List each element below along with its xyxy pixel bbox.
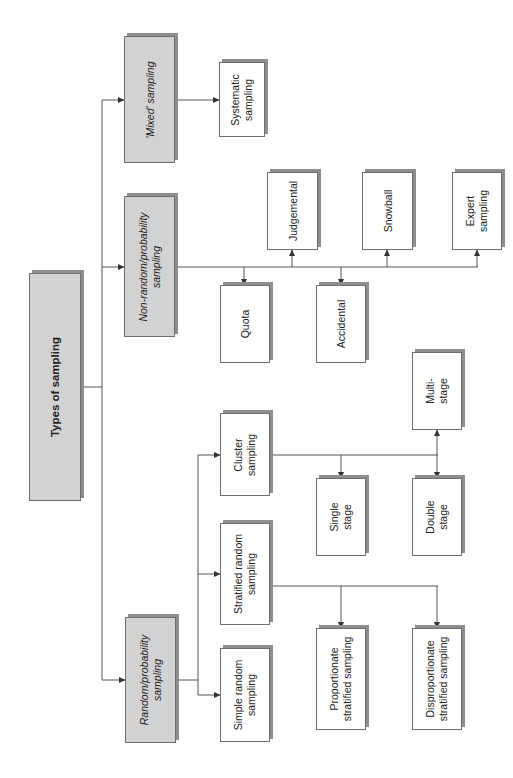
node-label: Cluster sampling [232, 433, 258, 475]
node-label: Non-random/probability sampling [137, 212, 163, 321]
node-label: 'Mixed' sampling [143, 61, 156, 138]
node-proportionate-stratified-sampling: Proportionate stratified sampling [316, 628, 366, 730]
node-simple-random-sampling: Simple random sampling [220, 648, 270, 742]
node-multi-stage: Multi- stage [412, 352, 462, 430]
node-random-sampling: Random/probability sampling [125, 617, 176, 743]
node-label: Systematic sampling [229, 74, 255, 125]
node-accidental: Accidental [316, 285, 366, 363]
node-snowball: Snowball [362, 172, 413, 250]
node-label: Disproportionate stratified sampling [424, 637, 450, 722]
node-label: Stratified random sampling [232, 534, 258, 614]
node-systematic-sampling: Systematic sampling [219, 62, 265, 137]
node-single-stage: Single stage [316, 478, 366, 556]
node-label: Multi- stage [424, 378, 450, 404]
node-label: Accidental [335, 300, 348, 348]
node-stratified-random-sampling: Stratified random sampling [220, 523, 270, 625]
node-types-of-sampling: Types of sampling [29, 273, 81, 501]
node-disproportionate-stratified-sampling: Disproportionate stratified sampling [412, 628, 462, 730]
node-label: Types of sampling [49, 337, 62, 437]
node-double-stage: Double stage [412, 478, 462, 556]
sampling-diagram: Types of sampling 'Mixed' sampling Non-r… [0, 0, 513, 778]
node-label: Quota [239, 310, 252, 339]
node-label: Random/probability sampling [138, 635, 164, 725]
node-label: Expert sampling [464, 190, 490, 232]
node-label: Single stage [328, 502, 354, 531]
node-label: Snowball [381, 190, 394, 233]
node-label: Simple random sampling [232, 660, 258, 731]
node-expert-sampling: Expert sampling [452, 172, 502, 250]
node-judgemental: Judgemental [267, 172, 318, 250]
node-quota: Quota [220, 285, 270, 363]
node-label: Judgemental [286, 181, 299, 241]
node-mixed-sampling: 'Mixed' sampling [124, 36, 175, 163]
node-cluster-sampling: Cluster sampling [220, 413, 270, 496]
node-label: Proportionate stratified sampling [328, 637, 354, 722]
node-non-random-sampling: Non-random/probability sampling [124, 196, 175, 337]
node-label: Double stage [424, 500, 450, 533]
